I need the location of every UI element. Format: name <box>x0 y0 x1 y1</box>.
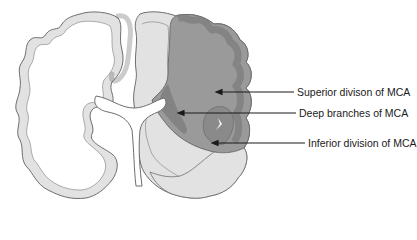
label-inferior-division: Inferior division of MCA <box>308 137 417 149</box>
label-deep-branches: Deep branches of MCA <box>299 107 408 119</box>
label-superior-division: Superior divison of MCA <box>297 86 410 98</box>
